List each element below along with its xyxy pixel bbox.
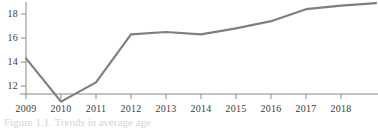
x-tick-label-2010: 2010	[44, 104, 78, 114]
chart-figure: 18 16 14 12 2009 2010 2011 2012 2013 201…	[0, 0, 378, 128]
y-tick-label-16: 16	[0, 33, 18, 43]
y-tick-label-12: 12	[0, 81, 18, 91]
x-tick-label-2015: 2015	[219, 104, 253, 114]
x-tick-label-2011: 2011	[79, 104, 113, 114]
x-tick-label-2018: 2018	[324, 104, 358, 114]
x-tick-label-2013: 2013	[149, 104, 183, 114]
x-tick-label-2009: 2009	[9, 104, 43, 114]
x-tick-label-2017: 2017	[289, 104, 323, 114]
figure-caption-clipped: Figure 1.1. Trends in average age	[0, 119, 378, 128]
data-series-line	[26, 3, 376, 101]
figure-caption-text: Figure 1.1. Trends in average age	[4, 119, 151, 128]
x-tick-label-2012: 2012	[114, 104, 148, 114]
y-tick-label-18: 18	[0, 9, 18, 19]
x-tick-label-2014: 2014	[184, 104, 218, 114]
x-tick-label-2016: 2016	[254, 104, 288, 114]
y-axis-ticks	[21, 14, 26, 86]
y-tick-label-14: 14	[0, 57, 18, 67]
